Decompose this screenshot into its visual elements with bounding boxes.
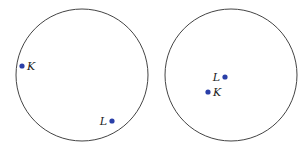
right-label-k: K bbox=[212, 86, 222, 99]
left-point-k bbox=[19, 63, 24, 68]
right-point-l bbox=[222, 74, 227, 79]
left-label-k: K bbox=[26, 60, 36, 73]
two-circles-diagram: K L L K bbox=[0, 0, 306, 149]
right-label-l: L bbox=[212, 71, 220, 84]
right-figure: L K bbox=[165, 9, 297, 141]
right-point-k bbox=[205, 89, 210, 94]
left-label-l: L bbox=[99, 115, 107, 128]
left-figure: K L bbox=[16, 9, 148, 141]
left-point-l bbox=[109, 118, 114, 123]
right-circle bbox=[165, 9, 297, 141]
left-circle bbox=[16, 9, 148, 141]
